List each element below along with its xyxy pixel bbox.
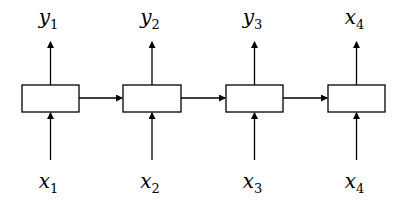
output-label: y1 bbox=[38, 5, 59, 32]
rnn-cell-box bbox=[123, 85, 181, 112]
output-label: y2 bbox=[139, 5, 160, 32]
output-label: y3 bbox=[242, 5, 263, 32]
rnn-cell-box bbox=[22, 85, 79, 112]
input-label: x2 bbox=[140, 169, 160, 196]
rnn-cell-box bbox=[226, 85, 283, 112]
rnn-diagram: y1x1y2x2y3x3x4x4 bbox=[0, 0, 405, 202]
input-label: x1 bbox=[39, 169, 59, 196]
output-label: x4 bbox=[345, 5, 365, 32]
input-label: x4 bbox=[345, 169, 365, 196]
rnn-cell-box bbox=[328, 85, 385, 112]
input-label: x3 bbox=[243, 169, 263, 196]
